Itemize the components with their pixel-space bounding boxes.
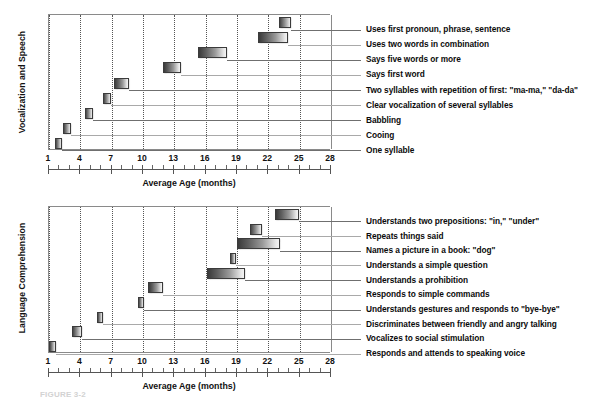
y-axis-title-top: Vocalization and Speech: [0, 12, 44, 152]
plot-area-bottom: [48, 206, 330, 353]
minor-tick-3: [69, 165, 70, 169]
x-tick-16: 16: [200, 153, 210, 163]
milestone-label: Understands two prepositions: "in," "und…: [366, 216, 539, 226]
minor-tick-27: [320, 165, 321, 169]
leader-line: [129, 90, 361, 91]
plot-area-top: [48, 14, 330, 150]
milestone-bar[interactable]: [237, 238, 280, 249]
major-tick-19: [236, 368, 237, 377]
milestone-bar[interactable]: [148, 282, 163, 293]
milestone-bar[interactable]: [85, 108, 93, 119]
milestone-bar[interactable]: [275, 209, 299, 220]
minor-tick-20: [246, 368, 247, 372]
major-tick-22: [267, 368, 268, 377]
milestone-bar[interactable]: [207, 268, 246, 279]
milestone-label: Clear vocalization of several syllables: [366, 100, 513, 110]
major-tick-25: [299, 165, 300, 174]
milestone-bar[interactable]: [63, 123, 71, 134]
ruler-baseline: [48, 372, 330, 373]
leader-line: [280, 251, 361, 252]
gridline-month-4: [80, 15, 81, 149]
x-tick-19: 19: [231, 153, 241, 163]
major-tick-13: [173, 368, 174, 377]
leader-line: [144, 310, 361, 311]
x-tick-25: 25: [294, 153, 304, 163]
major-tick-16: [205, 368, 206, 377]
milestone-label: Says first word: [366, 69, 425, 79]
milestone-bar[interactable]: [138, 297, 144, 308]
minor-tick-6: [100, 165, 101, 169]
minor-tick-26: [309, 165, 310, 169]
leader-line: [227, 60, 361, 61]
major-tick-25: [299, 368, 300, 377]
x-tick-4: 4: [77, 356, 82, 366]
leader-line: [299, 221, 361, 222]
minor-tick-18: [226, 165, 227, 169]
leader-line: [288, 45, 361, 46]
major-tick-1: [48, 165, 49, 174]
milestone-label: Says five words or more: [366, 54, 461, 64]
x-tick-28: 28: [325, 153, 335, 163]
leader-line: [245, 280, 361, 281]
x-tick-25: 25: [294, 356, 304, 366]
milestone-label: Discriminates between friendly and angry…: [366, 319, 557, 329]
milestone-label: Repeats things said: [366, 231, 443, 241]
milestone-bar[interactable]: [72, 326, 82, 337]
figure-container: Vocalization and Speech Uses first prono…: [0, 0, 613, 397]
x-tick-10: 10: [137, 153, 147, 163]
leader-line: [103, 324, 361, 325]
minor-tick-3: [69, 368, 70, 372]
minor-tick-9: [132, 368, 133, 372]
minor-tick-12: [163, 368, 164, 372]
milestone-bar[interactable]: [55, 138, 61, 149]
gridline-month-10: [143, 207, 144, 352]
x-tick-16: 16: [200, 356, 210, 366]
figure-caption: FIGURE 3-2: [40, 390, 86, 397]
leader-line: [291, 30, 361, 31]
milestone-bar[interactable]: [103, 93, 110, 104]
milestone-label: Babbling: [366, 115, 401, 125]
x-tick-28: 28: [325, 356, 335, 366]
minor-tick-15: [194, 368, 195, 372]
major-tick-1: [48, 368, 49, 377]
milestone-bar[interactable]: [230, 253, 236, 264]
minor-tick-11: [152, 368, 153, 372]
milestone-bar[interactable]: [198, 47, 226, 58]
milestone-label: Two syllables with repetition of first: …: [366, 85, 578, 95]
major-tick-28: [330, 165, 331, 174]
x-axis-title-bottom: Average Age (months): [48, 381, 330, 391]
minor-tick-21: [257, 368, 258, 372]
chart-panel-comprehension: Language Comprehension Understands two p…: [0, 196, 613, 397]
gridline-month-1: [49, 207, 50, 352]
x-tick-22: 22: [263, 356, 273, 366]
leader-line: [82, 339, 361, 340]
leader-line: [181, 75, 361, 76]
milestone-bar[interactable]: [279, 17, 292, 28]
milestone-bar[interactable]: [250, 224, 263, 235]
minor-tick-8: [121, 368, 122, 372]
leader-line: [163, 295, 361, 296]
minor-tick-11: [152, 165, 153, 169]
leader-line: [62, 150, 361, 151]
milestone-label: Understands a simple question: [366, 260, 488, 270]
minor-tick-5: [90, 368, 91, 372]
gridline-month-19: [237, 207, 238, 352]
major-tick-28: [330, 368, 331, 377]
milestone-label: Cooing: [366, 130, 394, 140]
milestone-bar[interactable]: [163, 62, 181, 73]
major-tick-10: [142, 368, 143, 377]
leader-line: [56, 354, 361, 355]
milestone-bar[interactable]: [97, 312, 103, 323]
milestone-label: Understands gestures and responds to "by…: [366, 304, 560, 314]
major-tick-10: [142, 165, 143, 174]
milestone-bar[interactable]: [114, 78, 130, 89]
milestone-bar[interactable]: [258, 32, 288, 43]
gridline-month-28: [331, 15, 332, 149]
milestone-label: Names a picture in a book: "dog": [366, 245, 495, 255]
minor-tick-24: [288, 165, 289, 169]
minor-tick-21: [257, 165, 258, 169]
milestone-label: Responds to simple commands: [366, 289, 490, 299]
x-tick-22: 22: [263, 153, 273, 163]
minor-tick-8: [121, 165, 122, 169]
milestone-bar[interactable]: [49, 341, 56, 352]
